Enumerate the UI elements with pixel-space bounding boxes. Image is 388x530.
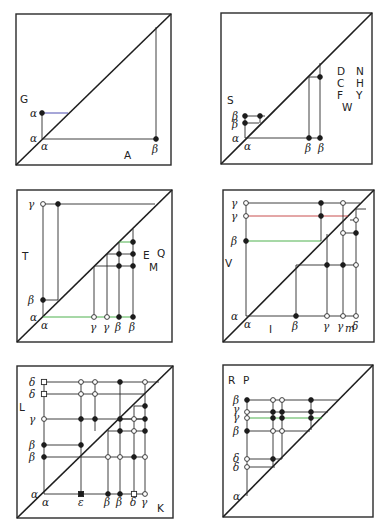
- panel-letter-label: G: [20, 93, 28, 105]
- open-dot-marker: [341, 201, 346, 206]
- axis-symbol-label: γ: [90, 321, 97, 333]
- axis-symbol-label: α: [42, 496, 49, 508]
- filled-dot-marker: [258, 114, 263, 119]
- axis-symbol-label: A: [124, 149, 132, 161]
- filled-dot-marker: [318, 75, 323, 80]
- open-square-marker: [41, 379, 46, 384]
- panel-letter-label: Y: [355, 89, 363, 101]
- panel-letter-label: C: [337, 77, 344, 89]
- open-dot-marker: [354, 314, 359, 319]
- panel-3: γβααγγββTEQM: [17, 190, 172, 342]
- filled-dot-marker: [244, 239, 249, 244]
- filled-dot-marker: [280, 416, 285, 421]
- open-dot-marker: [280, 429, 285, 434]
- filled-dot-marker: [319, 214, 324, 219]
- filled-dot-marker: [309, 416, 314, 421]
- panel-letter-label: F: [337, 89, 343, 101]
- filled-dot-marker: [309, 410, 314, 415]
- filled-dot-marker: [131, 252, 136, 257]
- filled-dot-marker: [354, 231, 359, 236]
- open-dot-marker: [244, 201, 249, 206]
- open-dot-marker: [105, 315, 110, 320]
- filled-dot-marker: [271, 416, 276, 421]
- open-dot-marker: [245, 416, 250, 421]
- panel-letter-label: Q: [157, 247, 165, 259]
- filled-dot-marker: [245, 398, 250, 403]
- filled-dot-marker: [131, 240, 136, 245]
- panel-2: ββααββDNCHFYWS: [221, 13, 372, 164]
- axis-symbol-label: α: [31, 488, 38, 500]
- open-dot-marker: [93, 380, 98, 385]
- open-dot-marker: [245, 410, 250, 415]
- axis-symbol-label: γ: [231, 197, 238, 209]
- filled-dot-marker: [132, 455, 137, 460]
- filled-dot-marker: [41, 298, 46, 303]
- open-dot-marker: [245, 457, 250, 462]
- panel-letter-label: L: [19, 401, 25, 413]
- axis-symbol-label: β: [317, 142, 324, 154]
- filled-dot-marker: [56, 202, 61, 207]
- open-dot-marker: [280, 398, 285, 403]
- filled-dot-marker: [118, 429, 123, 434]
- axis-symbol-label: α: [233, 490, 240, 502]
- open-dot-marker: [93, 392, 98, 397]
- filled-dot-marker: [131, 264, 136, 269]
- filled-dot-marker: [294, 314, 299, 319]
- filled-dot-marker: [271, 410, 276, 415]
- open-dot-marker: [118, 455, 123, 460]
- filled-dot-marker: [243, 121, 248, 126]
- axis-symbol-label: δ: [130, 496, 136, 508]
- filled-dot-marker: [245, 429, 250, 434]
- axis-symbol-label: β: [114, 321, 121, 333]
- axis-symbol-label: β: [304, 142, 311, 154]
- open-dot-marker: [106, 455, 111, 460]
- filled-dot-marker: [117, 315, 122, 320]
- filled-dot-marker: [143, 417, 148, 422]
- filled-dot-marker: [79, 443, 84, 448]
- open-dot-marker: [143, 455, 148, 460]
- open-dot-marker: [79, 380, 84, 385]
- filled-dot-marker: [243, 114, 248, 119]
- open-dot-marker: [132, 417, 137, 422]
- axis-symbol-label: α: [30, 132, 37, 144]
- axis-symbol-label: α: [244, 140, 251, 152]
- axis-symbol-label: γ: [28, 198, 35, 210]
- panel-letter-label: T: [21, 250, 29, 262]
- axis-symbol-label: β: [151, 143, 158, 155]
- open-dot-marker: [245, 465, 250, 470]
- axis-symbol-label: ε: [78, 496, 84, 508]
- axis-symbol-label: β: [230, 235, 237, 247]
- open-dot-marker: [132, 429, 137, 434]
- diagonal-line: [16, 14, 171, 165]
- panel-letter-label: N: [356, 65, 364, 77]
- panel-letter-label: K: [157, 502, 165, 514]
- open-dot-marker: [92, 315, 97, 320]
- axis-symbol-label: δ: [29, 388, 35, 400]
- panel-letter-label: R: [228, 374, 235, 386]
- axis-symbol-label: β: [28, 451, 35, 463]
- axis-symbol-label: δ: [352, 320, 358, 332]
- diagonal-line: [223, 365, 373, 517]
- filled-dot-marker: [118, 380, 123, 385]
- open-dot-marker: [354, 263, 359, 268]
- filled-dot-marker: [42, 443, 47, 448]
- open-dot-marker: [244, 214, 249, 219]
- filled-dot-marker: [271, 457, 276, 462]
- filled-dot-marker: [319, 201, 324, 206]
- axis-symbol-label: β: [232, 425, 239, 437]
- filled-dot-marker: [79, 417, 84, 422]
- filled-dot-marker: [143, 404, 148, 409]
- axis-symbol-label: γ: [29, 413, 36, 425]
- filled-dot-marker: [40, 111, 45, 116]
- axis-symbol-label: α: [244, 318, 251, 330]
- axis-symbol-label: α: [231, 310, 238, 322]
- axis-symbol-label: δ: [29, 376, 35, 388]
- axis-symbol-label: γ: [141, 496, 148, 508]
- open-dot-marker: [42, 417, 47, 422]
- axis-symbol-label: β: [27, 294, 34, 306]
- open-dot-marker: [79, 392, 84, 397]
- axis-symbol-label: β: [291, 320, 298, 332]
- axis-symbol-label: γ: [103, 321, 110, 333]
- panel-letter-label: D: [337, 65, 345, 77]
- panel-letter-label: I: [269, 323, 272, 335]
